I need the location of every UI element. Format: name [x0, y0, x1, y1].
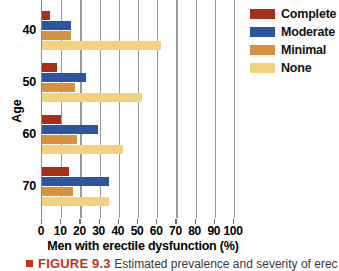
y-tick-label-40: 40 [6, 23, 36, 37]
bar-none-age-40 [42, 41, 161, 50]
gridline [234, 0, 235, 218]
bar-moderate-age-40 [42, 21, 71, 30]
bar-moderate-age-60 [42, 125, 98, 134]
legend-label-minimal: Minimal [281, 43, 326, 57]
bar-complete-age-60 [42, 115, 61, 124]
bar-group-age-60 [42, 114, 234, 158]
legend-item-complete[interactable]: Complete [250, 5, 339, 23]
legend-item-none[interactable]: None [250, 59, 339, 77]
bar-minimal-age-50 [42, 83, 75, 92]
bar-group-age-70 [42, 166, 234, 210]
legend-swatch-moderate [250, 27, 275, 37]
figure-caption: FIGURE 9.3 Estimated prevalence and seve… [26, 256, 339, 271]
caption-body: Estimated prevalence and severity of ere… [114, 257, 337, 271]
bar-none-age-50 [42, 93, 142, 102]
bar-moderate-age-70 [42, 177, 109, 186]
bar-complete-age-40 [42, 11, 50, 20]
bar-group-age-40 [42, 10, 234, 54]
y-tick-label-70: 70 [6, 179, 36, 193]
legend-swatch-minimal [250, 45, 275, 55]
y-axis-title: Age [10, 81, 24, 141]
legend-item-moderate[interactable]: Moderate [250, 23, 339, 41]
x-tick-label-100: 100 [218, 224, 248, 238]
caption-figure-number: FIGURE 9.3 [38, 256, 111, 271]
legend-item-minimal[interactable]: Minimal [250, 41, 339, 59]
caption-bullet-icon [26, 260, 33, 267]
x-axis-ticks: 0102030405060708090100 [41, 219, 233, 237]
legend-label-moderate: Moderate [281, 25, 335, 39]
legend-swatch-none [250, 63, 275, 73]
bar-none-age-60 [42, 145, 123, 154]
legend-label-complete: Complete [281, 7, 336, 21]
bar-minimal-age-40 [42, 31, 71, 40]
legend-label-none: None [281, 61, 311, 75]
legend-swatch-complete [250, 9, 275, 19]
bar-group-age-50 [42, 62, 234, 106]
x-axis-title: Men with erectile dysfunction (%) [0, 239, 286, 253]
bar-moderate-age-50 [42, 73, 86, 82]
legend: CompleteModerateMinimalNone [250, 5, 339, 77]
bar-complete-age-50 [42, 63, 57, 72]
bar-minimal-age-60 [42, 135, 77, 144]
bar-complete-age-70 [42, 167, 69, 176]
plot-area [41, 0, 234, 218]
bar-minimal-age-70 [42, 187, 73, 196]
bar-none-age-70 [42, 197, 109, 206]
